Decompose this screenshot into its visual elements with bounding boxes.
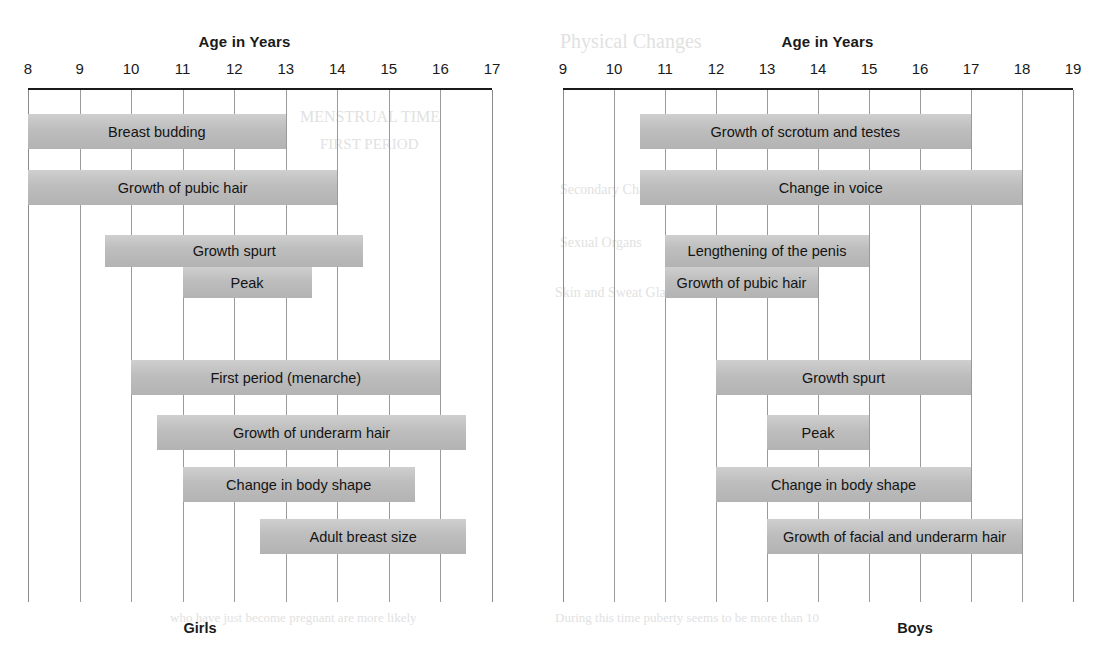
axis-tick-label: 9	[559, 60, 567, 77]
chart-gridline	[234, 90, 235, 602]
chart-girls-title: Age in Years	[0, 33, 519, 50]
chart-gridline	[1022, 90, 1023, 602]
chart-bar: Change in body shape	[183, 467, 415, 502]
chart-bar: Growth of facial and underarm hair	[767, 519, 1022, 554]
chart-gridline	[28, 90, 29, 602]
chart-bar: Growth of underarm hair	[157, 415, 466, 450]
axis-tick-label: 14	[329, 60, 346, 77]
chart-bar-label: Growth of scrotum and testes	[640, 125, 972, 140]
chart-girls: Age in Years 891011121314151617 Breast b…	[0, 0, 549, 660]
chart-bar-label: Growth spurt	[716, 371, 971, 386]
chart-bar-label: Growth spurt	[105, 244, 363, 259]
axis-tick-label: 17	[484, 60, 501, 77]
chart-boys-plot-area: Growth of scrotum and testesChange in vo…	[563, 88, 1073, 602]
chart-bar-label: Peak	[183, 276, 312, 291]
chart-gridline	[665, 90, 666, 602]
axis-tick-label: 18	[1014, 60, 1031, 77]
chart-bar-label: Growth of facial and underarm hair	[767, 530, 1022, 545]
axis-tick-label: 8	[24, 60, 32, 77]
chart-bar: Change in body shape	[716, 467, 971, 502]
chart-gridline	[563, 90, 564, 602]
axis-tick-label: 9	[75, 60, 83, 77]
chart-bar: Growth spurt	[105, 235, 363, 267]
axis-tick-label: 16	[432, 60, 449, 77]
axis-tick-label: 15	[381, 60, 398, 77]
chart-boys-axis-ticks: 910111213141516171819	[540, 60, 1099, 82]
chart-bar-label: Lengthening of the penis	[665, 244, 869, 259]
chart-bar-label: Change in voice	[640, 181, 1023, 196]
chart-gridline	[131, 90, 132, 602]
chart-bar: Adult breast size	[260, 519, 466, 554]
axis-tick-label: 15	[861, 60, 878, 77]
chart-boys-title: Age in Years	[548, 33, 1099, 50]
chart-bar: Lengthening of the penis	[665, 235, 869, 267]
axis-tick-label: 11	[657, 60, 673, 77]
chart-bar-label: Change in body shape	[183, 478, 415, 493]
chart-bar-label: First period (menarche)	[131, 371, 440, 386]
chart-bar: Change in voice	[640, 170, 1023, 205]
axis-tick-label: 10	[606, 60, 623, 77]
axis-tick-label: 13	[277, 60, 294, 77]
chart-bar: Growth spurt	[716, 360, 971, 395]
axis-tick-label: 10	[123, 60, 140, 77]
chart-bar-label: Breast budding	[28, 125, 286, 140]
chart-bar-label: Peak	[767, 426, 869, 441]
chart-bar-label: Adult breast size	[260, 530, 466, 545]
chart-girls-footer-label: Girls	[183, 620, 216, 636]
chart-boys-footer-label: Boys	[897, 620, 932, 636]
chart-girls-plot-area: Breast buddingGrowth of pubic hairGrowth…	[28, 88, 492, 602]
axis-tick-label: 11	[175, 60, 191, 77]
chart-gridline	[492, 90, 493, 602]
axis-tick-label: 14	[810, 60, 827, 77]
axis-tick-label: 16	[912, 60, 929, 77]
chart-girls-axis-ticks: 891011121314151617	[0, 60, 549, 82]
chart-bar: Growth of pubic hair	[28, 170, 337, 205]
chart-boys: Age in Years 910111213141516171819 Growt…	[540, 0, 1099, 660]
chart-bar: Peak	[183, 267, 312, 298]
axis-tick-label: 13	[759, 60, 776, 77]
chart-bar-label: Change in body shape	[716, 478, 971, 493]
axis-tick-label: 17	[963, 60, 980, 77]
axis-tick-label: 12	[226, 60, 243, 77]
axis-tick-label: 19	[1065, 60, 1082, 77]
chart-gridline	[80, 90, 81, 602]
chart-bar: First period (menarche)	[131, 360, 440, 395]
chart-bar: Peak	[767, 415, 869, 450]
chart-bar: Breast budding	[28, 114, 286, 149]
chart-gridline	[716, 90, 717, 602]
chart-bar-label: Growth of pubic hair	[665, 276, 818, 291]
chart-gridline	[614, 90, 615, 602]
chart-bar: Growth of scrotum and testes	[640, 114, 972, 149]
chart-bar-label: Growth of underarm hair	[157, 426, 466, 441]
chart-gridline	[183, 90, 184, 602]
axis-tick-label: 12	[708, 60, 725, 77]
chart-bar: Growth of pubic hair	[665, 267, 818, 298]
chart-bar-label: Growth of pubic hair	[28, 181, 337, 196]
chart-gridline	[1073, 90, 1074, 602]
